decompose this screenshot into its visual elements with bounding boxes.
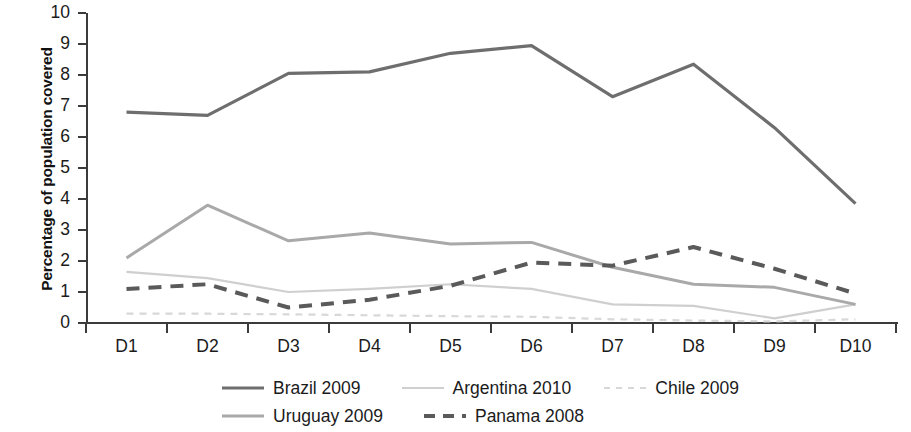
series-line-panama-2008 (127, 247, 856, 307)
x-axis-tick-label: D4 (340, 336, 400, 357)
plot-area (86, 13, 896, 323)
y-axis-tick-label: 6 (0, 128, 70, 146)
legend-item-panama[interactable]: Panama 2008 (424, 402, 584, 430)
y-axis-tick (78, 105, 86, 107)
legend-swatch-argentina-icon (402, 381, 444, 395)
x-axis-tick-label: D10 (826, 336, 886, 357)
x-axis-tick-label: D8 (664, 336, 724, 357)
x-axis-tick-label: D5 (421, 336, 481, 357)
x-axis-tick (733, 324, 735, 333)
y-axis-tick (78, 43, 86, 45)
x-axis-tick (85, 324, 87, 333)
x-axis-tick-label: D2 (178, 336, 238, 357)
x-axis-tick-label: D3 (259, 336, 319, 357)
y-axis-tick-label: 5 (0, 159, 70, 177)
legend-item-chile[interactable]: Chile 2009 (604, 374, 739, 402)
y-axis-tick-label: 0 (0, 314, 70, 332)
legend-row: Uruguay 2009Panama 2008 (222, 402, 782, 430)
chart-figure: Percentage of population covered 0123456… (0, 0, 911, 432)
y-axis-tick-label: 10 (0, 4, 70, 22)
y-axis-tick (78, 198, 86, 200)
x-axis-tick (895, 324, 897, 333)
x-axis-tick-label: D6 (502, 336, 562, 357)
y-axis-tick (78, 291, 86, 293)
legend-label-panama: Panama 2008 (475, 406, 584, 427)
y-axis-tick (78, 12, 86, 14)
legend-row: Brazil 2009Argentina 2010Chile 2009 (222, 374, 782, 402)
series-line-brazil-2009 (127, 46, 856, 204)
x-axis-tick-label: D9 (745, 336, 805, 357)
legend-swatch-panama-icon (424, 409, 466, 423)
series-line-uruguay-2009 (127, 205, 856, 304)
y-axis-tick (78, 136, 86, 138)
legend-label-brazil: Brazil 2009 (273, 378, 361, 399)
x-axis-tick (652, 324, 654, 333)
legend-label-argentina: Argentina 2010 (453, 378, 572, 399)
legend-label-uruguay: Uruguay 2009 (273, 406, 383, 427)
x-axis-tick (814, 324, 816, 333)
x-axis-tick (166, 324, 168, 333)
y-axis-tick-label: 7 (0, 97, 70, 115)
x-axis-tick-label: D1 (97, 336, 157, 357)
x-axis-tick-label: D7 (583, 336, 643, 357)
legend-swatch-brazil-icon (222, 381, 264, 395)
series-lines (86, 13, 896, 323)
x-axis-tick (490, 324, 492, 333)
y-axis-tick (78, 229, 86, 231)
y-axis-tick-label: 2 (0, 252, 70, 270)
y-axis-tick (78, 74, 86, 76)
y-axis-tick (78, 260, 86, 262)
y-axis-tick-label: 3 (0, 221, 70, 239)
legend-item-argentina[interactable]: Argentina 2010 (402, 374, 572, 402)
y-axis-tick-label: 1 (0, 283, 70, 301)
chart-legend: Brazil 2009Argentina 2010Chile 2009Urugu… (222, 374, 782, 430)
x-axis-tick (328, 324, 330, 333)
y-axis-tick (78, 167, 86, 169)
x-axis-tick (247, 324, 249, 333)
x-axis-tick (571, 324, 573, 333)
series-line-argentina-2010 (127, 272, 856, 319)
legend-item-brazil[interactable]: Brazil 2009 (222, 374, 361, 402)
y-axis-tick-label: 4 (0, 190, 70, 208)
y-axis-tick-label: 8 (0, 66, 70, 84)
legend-swatch-chile-icon (604, 381, 646, 395)
legend-swatch-uruguay-icon (222, 409, 264, 423)
y-axis-tick-label: 9 (0, 35, 70, 53)
legend-label-chile: Chile 2009 (655, 378, 739, 399)
x-axis-tick (409, 324, 411, 333)
legend-item-uruguay[interactable]: Uruguay 2009 (222, 402, 383, 430)
